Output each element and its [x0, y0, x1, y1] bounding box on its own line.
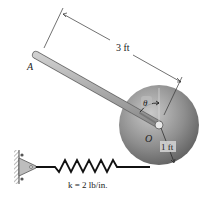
radius-label: 1 ft — [161, 142, 174, 152]
wall-support — [14, 150, 36, 184]
rod-length-label: 3 ft — [116, 42, 130, 53]
angle-label: θ — [143, 98, 148, 108]
pendulum-spring-diagram: 3 ft θ 1 ft O A k = 2 lb/in. — [0, 0, 217, 203]
pivot-pin — [155, 121, 163, 129]
spring — [36, 160, 150, 172]
pivot-label: O — [145, 133, 152, 144]
rod — [36, 55, 158, 124]
point-a-label: A — [26, 61, 34, 72]
spring-constant-label: k = 2 lb/in. — [68, 180, 108, 190]
